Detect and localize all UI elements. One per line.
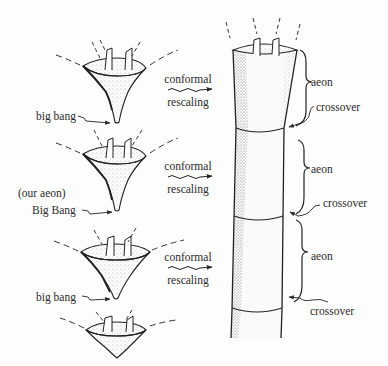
aeon-label-3: aeon [311, 250, 333, 262]
our-aeon-note: (our aeon) [18, 187, 66, 199]
conformal-label-1: conformal [158, 73, 218, 85]
big-bang-label-1: big bang [36, 110, 76, 122]
rescaling-arrow-3 [168, 267, 212, 270]
rescaling-arrow-1 [168, 89, 212, 92]
big-bang-label-3: big bang [36, 291, 76, 303]
aeon-label-2: aeon [311, 163, 333, 175]
cone-4-drawing [60, 310, 176, 358]
big-bang-arrow-1 [78, 116, 110, 123]
rescaling-label-2: rescaling [158, 183, 218, 195]
rescaling-label-1: rescaling [158, 96, 218, 108]
rescaling-arrow-2 [168, 176, 212, 179]
big-bang-arrow-3 [82, 296, 110, 300]
cone-3-drawing [54, 228, 184, 299]
cylinder-drawing [226, 18, 300, 338]
big-bang-arrow-2 [82, 210, 112, 214]
crossover-arrow-2 [290, 205, 320, 216]
conformal-cyclic-cosmology-diagram: big bang (our aeon) Big Bang big bang co… [0, 0, 388, 366]
rescaling-label-3: rescaling [158, 274, 218, 286]
crossover-label-3: crossover [310, 305, 354, 317]
crossover-arrow-1 [289, 106, 314, 127]
aeon-label-1: aeon [311, 76, 333, 88]
big-bang-label-2: Big Bang [32, 204, 76, 216]
aeon-braces [294, 50, 312, 302]
crossover-label-2: crossover [323, 197, 367, 209]
crossover-label-1: crossover [316, 101, 360, 113]
conformal-label-2: conformal [158, 160, 218, 172]
conformal-label-3: conformal [158, 251, 218, 263]
